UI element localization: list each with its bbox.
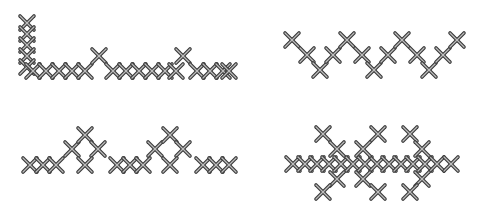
cross-stitch-icon xyxy=(196,158,210,172)
cross-stitch-icon xyxy=(330,172,344,186)
cross-stitch-icon xyxy=(203,64,217,78)
cross-stitch-icon xyxy=(132,64,146,78)
cross-stitch-icon xyxy=(300,48,314,62)
cross-stitch-icon xyxy=(371,127,385,141)
cross-stitch-icon xyxy=(381,48,395,62)
cross-stitch-icon xyxy=(395,33,409,47)
cross-stitch-icon xyxy=(356,172,370,186)
cross-stitch-icon xyxy=(436,48,450,62)
cross-stitch-icon xyxy=(123,158,137,172)
cross-stitch-icon xyxy=(355,48,369,62)
cross-stitch-icon xyxy=(78,158,92,172)
cross-stitch-icon xyxy=(136,158,150,172)
cross-stitch-icon xyxy=(119,64,133,78)
cross-stitch-icon xyxy=(163,128,177,142)
cross-stitch-icon xyxy=(403,127,417,141)
cross-stitch-icon xyxy=(92,49,106,63)
cross-stitch-icon xyxy=(176,49,190,63)
cross-stitch-icon xyxy=(145,64,159,78)
cross-stitch-icon xyxy=(415,142,429,156)
cross-stitch-icon xyxy=(39,64,53,78)
cross-stitch-icon xyxy=(23,158,37,172)
cross-stitch-icon xyxy=(340,33,354,47)
cross-stitch-icon xyxy=(148,142,162,156)
cross-stitch-icon xyxy=(330,142,344,156)
cross-stitch-icon xyxy=(422,63,436,77)
cross-stitch-icon xyxy=(430,157,444,171)
corner-border-pattern xyxy=(20,16,236,78)
cross-stitch-icon xyxy=(106,64,120,78)
cross-stitch-canvas xyxy=(0,0,483,214)
cross-stitch-icon xyxy=(444,157,458,171)
cross-stitch-icon xyxy=(36,158,50,172)
cross-stitch-icon xyxy=(176,142,190,156)
cross-stitch-icon xyxy=(410,48,424,62)
cross-stitch-icon xyxy=(367,63,381,77)
cross-stitch-icon xyxy=(65,142,79,156)
cross-stitch-icon xyxy=(65,64,79,78)
cross-stitch-icon xyxy=(222,158,236,172)
cross-stitch-icon xyxy=(313,63,327,77)
cross-stitch-icon xyxy=(91,142,105,156)
cross-stitch-icon xyxy=(190,64,204,78)
cross-stitch-icon xyxy=(209,158,223,172)
cross-stitch-icon xyxy=(356,142,370,156)
cross-stitch-icon xyxy=(316,185,330,199)
cross-stitch-icon xyxy=(49,158,63,172)
cross-stitch-icon xyxy=(110,158,124,172)
cross-stitch-icon xyxy=(52,64,66,78)
cross-stitch-icon xyxy=(326,48,340,62)
zigzag-pattern xyxy=(285,33,464,77)
cross-stitch-icon xyxy=(316,127,330,141)
cross-stitch-icon xyxy=(78,64,92,78)
cross-stitch-icon xyxy=(403,185,417,199)
cross-stitch-icon xyxy=(26,64,40,78)
cross-stitch-icon xyxy=(371,185,385,199)
cross-stitch-icon xyxy=(169,64,183,78)
cross-stitch-icon xyxy=(285,33,299,47)
cross-stitch-icon xyxy=(78,128,92,142)
cross-stitch-icon xyxy=(163,158,177,172)
cross-stitch-icon xyxy=(450,33,464,47)
diamond-border-pattern xyxy=(23,128,236,172)
branch-border-pattern xyxy=(286,127,458,199)
